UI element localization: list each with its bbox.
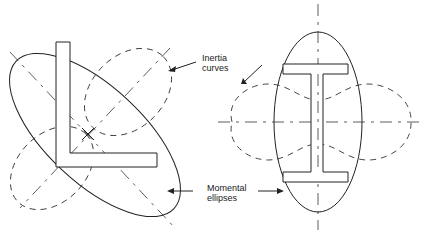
angle-section-group: [0, 26, 207, 238]
leader-lines: [167, 62, 284, 194]
inertia-curve-lower-lobe: [0, 110, 110, 226]
angle-shape: [56, 42, 157, 167]
i-beam-shape: [283, 64, 348, 182]
arrowhead-icon: [277, 188, 284, 194]
label-line-2: curves: [202, 63, 229, 73]
arrowhead-icon: [168, 66, 176, 72]
i-beam-section-group: [218, 4, 425, 230]
label-line-1: Momental: [207, 183, 247, 193]
momental-ellipses-label: Momental ellipses: [207, 183, 247, 203]
arrowhead-icon: [241, 78, 247, 84]
principal-axis-minor: [20, 48, 170, 208]
inertia-curves-label: Inertia curves: [202, 53, 229, 73]
arrowhead-icon: [167, 188, 174, 194]
label-line-1: Inertia: [202, 53, 229, 63]
label-line-2: ellipses: [207, 193, 247, 203]
inertia-curve-upper-lobe: [67, 31, 189, 153]
inertia-leader-left: [172, 62, 196, 70]
momental-ellipse-left: [0, 26, 207, 238]
inertia-leader-right: [244, 65, 262, 82]
